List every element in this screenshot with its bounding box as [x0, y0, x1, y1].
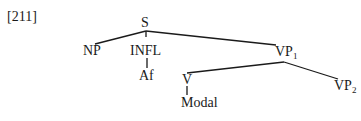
node-vp2: VP2: [334, 79, 356, 93]
example-number: [211]: [7, 10, 37, 24]
edge-vp1-v: [187, 62, 284, 73]
edge-vp1-vp2: [284, 62, 338, 79]
edge-s-vp1: [146, 31, 276, 45]
node-np: NP: [83, 44, 101, 58]
node-vp2-subscript: 2: [352, 85, 357, 95]
node-vp2-label: VP: [334, 78, 352, 93]
node-v: V: [182, 73, 192, 87]
node-modal: Modal: [181, 96, 218, 110]
node-vp1-subscript: 1: [293, 51, 298, 61]
node-vp1: VP1: [275, 45, 297, 59]
node-s: S: [141, 16, 149, 30]
node-af: Af: [139, 69, 154, 83]
node-infl: INFL: [130, 44, 161, 58]
node-vp1-label: VP: [275, 44, 293, 59]
